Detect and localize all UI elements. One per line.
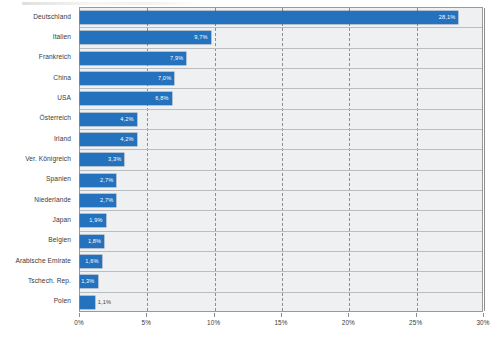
category-label-niederlande: Niederlande: [34, 197, 71, 204]
x-axis: 0%5%10%15%20%25%30%: [79, 313, 483, 335]
bar-value-label: 4,2%: [120, 117, 136, 123]
x-tick-label: 25%: [409, 320, 422, 326]
bar-row[interactable]: 6,8%: [80, 89, 482, 109]
x-tick-label: 5%: [142, 320, 151, 326]
bar-value-label: 1,1%: [95, 300, 111, 306]
x-tick: [348, 313, 349, 317]
bar-row[interactable]: 1,8%: [80, 232, 482, 252]
bar-frankreich[interactable]: 7,9%: [80, 52, 186, 65]
category-label-arabische-emirate: Arabische Emirate: [15, 258, 71, 265]
bar-row[interactable]: 28,1%: [80, 8, 482, 28]
bar-ver-k-nigreich[interactable]: 3,3%: [80, 153, 124, 166]
category-label-usa: USA: [57, 95, 71, 102]
bar-row[interactable]: 1,1%: [80, 293, 482, 313]
bar-italien[interactable]: 9,7%: [80, 31, 211, 44]
category-label-irland: Irland: [54, 136, 71, 143]
category-label-japan: Japan: [53, 217, 71, 224]
bar-value-label: 28,1%: [439, 15, 459, 21]
category-label-sterreich: Österreich: [40, 115, 71, 122]
category-label-tschech-rep: Tschech. Rep.: [28, 278, 71, 285]
bar-value-label: 1,3%: [81, 279, 97, 285]
bar-usa[interactable]: 6,8%: [80, 92, 172, 105]
bar-value-label: 9,7%: [194, 35, 210, 41]
bar-tschech-rep[interactable]: 1,3%: [80, 275, 98, 288]
x-tick-label: 0%: [74, 320, 83, 326]
x-tick: [281, 313, 282, 317]
bar-value-label: 6,8%: [155, 96, 171, 102]
x-tick-label: 30%: [476, 320, 489, 326]
x-tick-label: 15%: [274, 320, 287, 326]
category-label-spanien: Spanien: [46, 176, 71, 183]
bar-value-label: 3,3%: [108, 157, 124, 163]
bar-value-label: 2,7%: [100, 178, 116, 184]
x-tick: [214, 313, 215, 317]
bar-spanien[interactable]: 2,7%: [80, 174, 116, 187]
bar-row[interactable]: 2,7%: [80, 171, 482, 191]
bar-value-label: 7,0%: [158, 76, 174, 82]
category-label-italien: Italien: [53, 34, 71, 41]
x-tick-label: 20%: [342, 320, 355, 326]
bar-row[interactable]: 2,7%: [80, 191, 482, 211]
bar-row[interactable]: 1,9%: [80, 211, 482, 231]
category-label-polen: Polen: [54, 298, 71, 305]
x-tick: [146, 313, 147, 317]
bar-row[interactable]: 9,7%: [80, 28, 482, 48]
bar-deutschland[interactable]: 28,1%: [80, 11, 458, 24]
bar-value-label: 2,7%: [100, 198, 116, 204]
bar-row[interactable]: 4,2%: [80, 110, 482, 130]
bar-irland[interactable]: 4,2%: [80, 133, 137, 146]
bar-row[interactable]: 1,6%: [80, 252, 482, 272]
x-tick: [79, 313, 80, 317]
bar-value-label: 4,2%: [120, 137, 136, 143]
bar-value-label: 7,9%: [170, 56, 186, 62]
category-label-china: China: [53, 75, 71, 82]
bar-rows: 28,1%9,7%7,9%7,0%6,8%4,2%4,2%3,3%2,7%2,7…: [80, 8, 482, 311]
bar-polen[interactable]: 1,1%: [80, 296, 95, 309]
bar-value-label: 1,6%: [85, 259, 101, 265]
gridline-30pct: [484, 8, 485, 311]
bar-row[interactable]: 7,9%: [80, 49, 482, 69]
x-tick: [483, 313, 484, 317]
category-axis-labels: DeutschlandItalienFrankreichChinaUSAÖste…: [0, 7, 75, 312]
bar-chart-figure: DeutschlandItalienFrankreichChinaUSAÖste…: [0, 0, 497, 340]
bar-arabische-emirate[interactable]: 1,6%: [80, 255, 102, 268]
category-label-frankreich: Frankreich: [39, 54, 71, 61]
category-label-belgien: Belgien: [48, 237, 71, 244]
x-tick: [416, 313, 417, 317]
bar-china[interactable]: 7,0%: [80, 72, 174, 85]
bar-value-label: 1,9%: [89, 218, 105, 224]
bar-niederlande[interactable]: 2,7%: [80, 194, 116, 207]
bar-row[interactable]: 4,2%: [80, 130, 482, 150]
bar-row[interactable]: 1,3%: [80, 272, 482, 292]
category-label-deutschland: Deutschland: [33, 14, 71, 21]
x-tick-label: 10%: [207, 320, 220, 326]
plot-area: 28,1%9,7%7,9%7,0%6,8%4,2%4,2%3,3%2,7%2,7…: [79, 7, 483, 312]
scan-artifact: [22, 2, 202, 5]
bar-row[interactable]: 3,3%: [80, 150, 482, 170]
bar-belgien[interactable]: 1,8%: [80, 235, 104, 248]
bar-row[interactable]: 7,0%: [80, 69, 482, 89]
bar-japan[interactable]: 1,9%: [80, 214, 106, 227]
bar-value-label: 1,8%: [88, 239, 104, 245]
category-label-ver-k-nigreich: Ver. Königreich: [25, 156, 71, 163]
bar-sterreich[interactable]: 4,2%: [80, 113, 137, 126]
